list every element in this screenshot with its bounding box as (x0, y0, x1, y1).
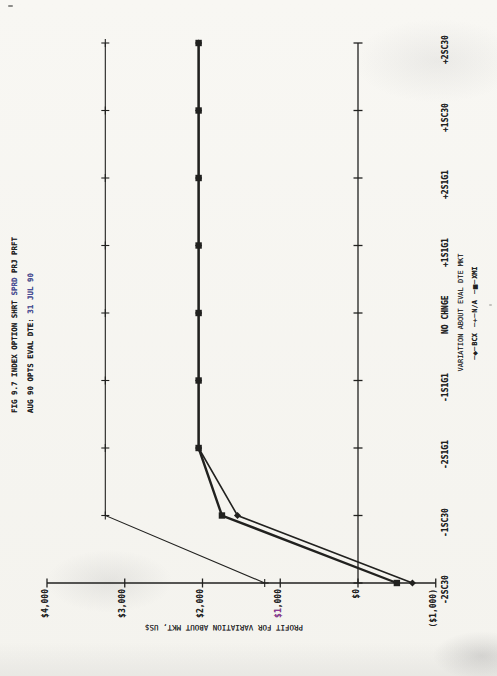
title-text-segment: AUG 90 OPTS EVAL DTE: (26, 314, 35, 413)
legend-label: XMI (470, 266, 480, 279)
variation-tick-label: -2S1G1 (441, 421, 451, 469)
scan-speck (489, 304, 492, 306)
scan-speck (8, 5, 13, 7)
legend-bcx-marker-icon: ◆ (470, 347, 480, 360)
profit-tick-label: $0 (352, 589, 362, 637)
series-XMI (195, 40, 400, 586)
chart-title-line1: FIG 9.7 INDEX OPTION SHRT SPRD PRJ PRFT (10, 233, 20, 413)
profit-tick-label: $3,000 (118, 589, 128, 637)
scanned-chart-page: FIG 9.7 INDEX OPTION SHRT SPRD PRJ PRFT … (0, 0, 497, 676)
profit-axis (47, 579, 436, 588)
variation-tick-label: -1SC30 (441, 489, 451, 537)
profit-tick-label: $4,000 (41, 589, 51, 637)
legend-item: ◆BCX (470, 333, 480, 360)
legend-item: ■XMI (470, 266, 480, 294)
profit-tick-label: $1,000 (274, 589, 284, 637)
variation-tick-label: +2S1G1 (441, 151, 451, 199)
series-BCX (195, 39, 416, 586)
chart-title-line2: AUG 90 OPTS EVAL DTE: 31 JUL 90 (26, 233, 36, 413)
legend-n-a-marker-icon: + (470, 314, 480, 327)
profit-tick-label: $2,000 (196, 589, 206, 637)
variation-tick-label: +1S1G1 (441, 219, 451, 267)
x-axis-title: VARIATION ABOUT EVAL DTE MKT (457, 248, 466, 378)
legend-item: +N/A (470, 300, 480, 327)
series-N-A (101, 39, 268, 587)
chart-canvas (0, 0, 497, 676)
variation-tick-label: -1S1G1 (441, 354, 451, 402)
legend-label: N/A (470, 300, 480, 313)
variation-tick-label: -2SC30 (441, 556, 451, 604)
category-axis-at-zero (354, 43, 363, 583)
legend-xmi-marker-icon: ■ (470, 280, 480, 294)
variation-tick-label: NO CHNGE (441, 286, 451, 334)
title-text-segment: 31 JUL 90 (26, 273, 35, 314)
legend: ◆BCX+N/A■XMI (470, 258, 480, 368)
variation-tick-label: +2SC30 (441, 16, 451, 64)
title-text-segment: SPRD (10, 278, 19, 296)
variation-tick-label: +1SC30 (441, 84, 451, 132)
title-text-segment: FIG 9.7 INDEX OPTION SHRT (10, 296, 19, 413)
profit-tick-label: ($1,000) (429, 589, 439, 637)
legend-label: BCX (470, 333, 480, 346)
title-text-segment: PRJ PRFT (10, 237, 19, 278)
